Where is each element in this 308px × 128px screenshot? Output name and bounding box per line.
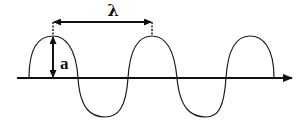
amplitude-label: a (60, 54, 69, 73)
wave-curve (29, 36, 274, 117)
wave-svg: λ a (0, 0, 308, 128)
wave-diagram: λ a (0, 0, 308, 128)
wavelength-label: λ (107, 1, 118, 20)
